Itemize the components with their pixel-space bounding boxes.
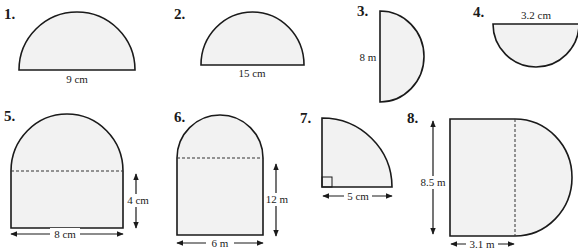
figure-6-height-label: 12 m bbox=[266, 193, 289, 205]
figure-7-number: 7. bbox=[300, 110, 312, 126]
figure-1-semicircle bbox=[19, 12, 135, 70]
figure-5-number: 5. bbox=[4, 108, 16, 124]
figure-4-number: 4. bbox=[473, 4, 485, 20]
figure-5-width-label: 8 cm bbox=[54, 228, 76, 240]
figure-4-diameter-label: 3.2 cm bbox=[521, 9, 551, 21]
figure-3-diameter-label: 8 m bbox=[360, 51, 377, 63]
figure-8-width-label: 3.1 m bbox=[469, 238, 495, 249]
figure-6-composite-shape bbox=[177, 115, 263, 235]
figure-2-diameter-label: 15 cm bbox=[238, 67, 266, 79]
figure-8-number: 8. bbox=[407, 110, 419, 126]
figure-5-height-label: 4 cm bbox=[127, 194, 149, 206]
figure-3-semicircle bbox=[380, 11, 424, 102]
figure-8: 8. 8.5 m 3.1 m bbox=[407, 110, 572, 249]
figure-2: 2. 15 cm bbox=[174, 6, 304, 79]
figure-8-composite-shape bbox=[450, 119, 572, 236]
figure-2-number: 2. bbox=[174, 6, 186, 22]
figure-7: 7. 5 cm bbox=[300, 110, 392, 202]
figure-6-number: 6. bbox=[174, 109, 186, 125]
figure-6: 6. 12 m 6 m bbox=[174, 109, 289, 249]
figure-4-semicircle bbox=[493, 24, 578, 67]
figure-3-number: 3. bbox=[357, 3, 369, 19]
figure-5: 5. 4 cm 8 cm bbox=[4, 108, 149, 241]
figure-4: 4. 3.2 cm bbox=[473, 4, 578, 67]
figure-1: 1. 9 cm bbox=[4, 6, 135, 85]
figure-2-semicircle bbox=[201, 12, 304, 65]
geometry-figures-canvas: 1. 9 cm 2. 15 cm 3. 8 m 4. 3.2 cm 5. 4 c… bbox=[0, 0, 578, 249]
figure-3: 3. 8 m bbox=[357, 3, 424, 102]
figure-7-radius-label: 5 cm bbox=[347, 190, 369, 202]
figure-1-number: 1. bbox=[4, 6, 16, 22]
figure-1-diameter-label: 9 cm bbox=[66, 73, 88, 85]
figure-6-width-label: 6 m bbox=[212, 237, 229, 249]
figure-8-height-label: 8.5 m bbox=[420, 176, 446, 188]
